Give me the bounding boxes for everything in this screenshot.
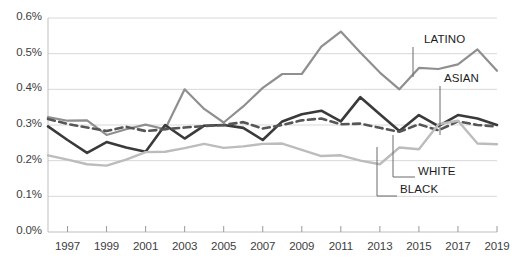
x-axis-tick-label: 2017 [438, 240, 478, 252]
series-label-white: WHITE [418, 165, 456, 177]
x-axis-tick-label: 1999 [87, 240, 127, 252]
y-axis-tick-label: 0.4% [0, 81, 42, 93]
y-axis-tick-label: 0.5% [0, 46, 42, 58]
y-axis-tick-label: 0.2% [0, 153, 42, 165]
series-label-asian: ASIAN [444, 72, 479, 84]
x-axis-tick-label: 2019 [477, 240, 514, 252]
y-axis-tick-label: 0.0% [0, 224, 42, 236]
x-axis-tick-label: 2001 [126, 240, 166, 252]
x-axis-tick-label: 2005 [204, 240, 244, 252]
x-axis-tick-label: 2011 [321, 240, 361, 252]
y-axis-tick-label: 0.1% [0, 188, 42, 200]
x-axis-tick-label: 2007 [243, 240, 283, 252]
x-axis-tick-label: 1997 [48, 240, 88, 252]
series-label-black: BLACK [400, 183, 438, 195]
leader-line-white [393, 135, 415, 177]
x-axis-tick-label: 2003 [165, 240, 205, 252]
series-line-latino [48, 32, 497, 135]
leader-line-black [377, 147, 397, 196]
y-axis-tick-label: 0.6% [0, 10, 42, 22]
series-label-latino: LATINO [424, 33, 465, 45]
x-axis-tick-label: 2015 [399, 240, 439, 252]
y-axis-tick-label: 0.3% [0, 117, 42, 129]
x-axis-tick-label: 2009 [282, 240, 322, 252]
x-axis-tick-label: 2013 [360, 240, 400, 252]
